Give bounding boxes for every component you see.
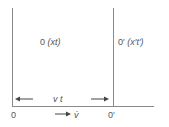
velocity-label: v̇ bbox=[74, 110, 79, 120]
x-axis-baseline bbox=[12, 106, 154, 107]
right-arrow-icon bbox=[91, 96, 109, 102]
frame-s-coords: (xt) bbox=[48, 37, 61, 47]
frame-s-label: 0 (xt) bbox=[40, 37, 61, 47]
frame-s-prime-label: 0′ (x′t′) bbox=[118, 37, 144, 47]
origin-o-prime-label: 0′ bbox=[108, 110, 115, 120]
frame-s-prime-vertical-axis bbox=[113, 8, 114, 107]
distance-vt-label: v t bbox=[53, 94, 63, 104]
frame-s-prime-coords: (x′t′) bbox=[127, 37, 143, 47]
left-arrow-icon bbox=[15, 96, 33, 102]
velocity-arrow-icon bbox=[55, 111, 71, 117]
frame-s-vertical-axis bbox=[12, 8, 13, 107]
origin-o-label: 0 bbox=[11, 110, 16, 120]
